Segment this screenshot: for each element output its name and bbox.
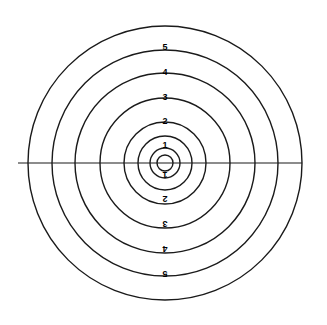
target-diagram: 1234512345: [0, 0, 327, 325]
ring-label-top-1: 1: [162, 140, 167, 150]
ring-label-top-2: 2: [162, 116, 167, 126]
ring-label-bottom-1: 1: [162, 170, 167, 180]
ring-label-top-4: 4: [162, 67, 167, 77]
ring-label-top-3: 3: [162, 92, 167, 102]
ring-label-bottom-4: 4: [162, 244, 167, 254]
ring-label-bottom-3: 3: [162, 219, 167, 229]
target-figure: 1234512345: [0, 0, 327, 325]
ring-label-bottom-5: 5: [162, 269, 167, 279]
ring-label-top-5: 5: [162, 42, 167, 52]
ring-label-bottom-2: 2: [162, 194, 167, 204]
